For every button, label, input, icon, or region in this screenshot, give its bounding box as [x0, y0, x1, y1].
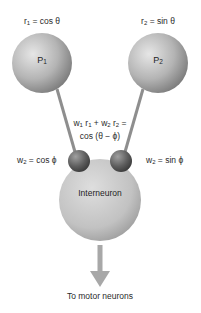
axon-line-p1: [57, 89, 75, 152]
weight-left-label: w2 = cos ϕ: [17, 155, 57, 165]
p1-rate-label: r1 = cos θ: [24, 16, 60, 26]
p1-label: P1: [37, 55, 47, 65]
equation-line-2: cos (θ − ϕ): [73, 131, 126, 142]
weighted-sum-equation: w1 r1 + w2 r2 = cos (θ − ϕ): [73, 118, 126, 142]
interneuron: [59, 159, 141, 241]
p2-rate-label: r2 = sin θ: [141, 16, 175, 26]
axon-line-p2: [125, 89, 143, 152]
output-label: To motor neurons: [67, 291, 133, 301]
equation-line-1: w1 r1 + w2 r2 =: [73, 118, 126, 131]
weight-right-label: w2 = sin ϕ: [146, 155, 183, 165]
synapse-right: [110, 150, 132, 172]
p2-label: P2: [153, 55, 163, 65]
output-arrow-icon: [90, 245, 110, 287]
synapse-left: [68, 150, 90, 172]
interneuron-label: Interneuron: [78, 188, 121, 198]
